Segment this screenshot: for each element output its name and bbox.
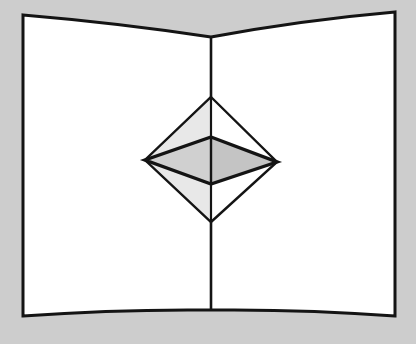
figure-container bbox=[0, 0, 416, 344]
popup-card-diagram bbox=[0, 0, 416, 344]
